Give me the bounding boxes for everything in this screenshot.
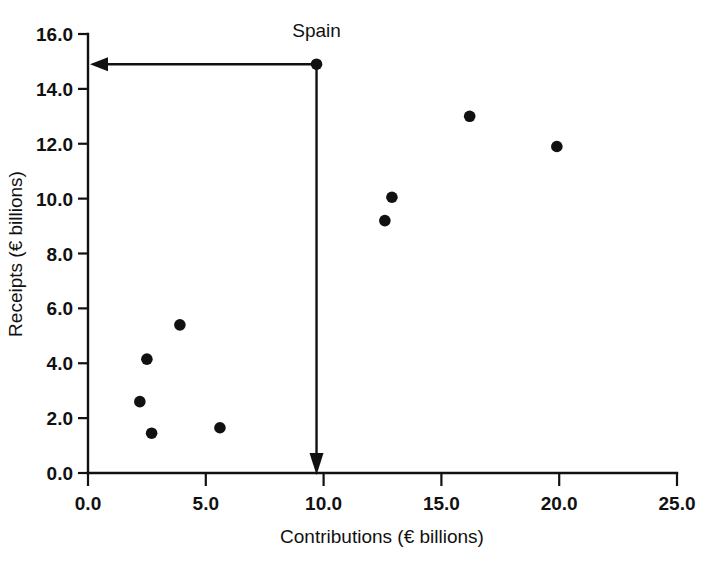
x-tick-label: 10.0 — [305, 493, 342, 514]
data-point — [386, 191, 398, 203]
y-tick-label: 16.0 — [36, 24, 73, 45]
scatter-chart: 0.02.04.06.08.010.012.014.016.0 0.05.010… — [0, 0, 721, 563]
data-point — [141, 353, 153, 365]
x-axis-title: Contributions (€ billions) — [280, 526, 484, 547]
data-point — [214, 422, 226, 434]
y-tick-label: 8.0 — [47, 244, 73, 265]
x-tick-label: 20.0 — [541, 493, 578, 514]
data-point — [379, 215, 391, 227]
y-tick-label: 12.0 — [36, 134, 73, 155]
x-tick-label: 25.0 — [659, 493, 696, 514]
y-tick-label: 0.0 — [47, 463, 73, 484]
y-tick-label: 4.0 — [47, 353, 73, 374]
data-point — [134, 396, 146, 408]
y-axis-title: Receipts (€ billions) — [5, 171, 26, 337]
y-tick-label: 14.0 — [36, 79, 73, 100]
annotation-arrowhead-down — [310, 453, 324, 475]
chart-canvas: 0.02.04.06.08.010.012.014.016.0 0.05.010… — [0, 0, 721, 563]
annotation-group: Spain — [90, 20, 341, 475]
x-tick-label: 0.0 — [75, 493, 101, 514]
x-tick-label: 15.0 — [423, 493, 460, 514]
data-point — [464, 111, 476, 123]
y-tick-label: 10.0 — [36, 189, 73, 210]
annotation-arrowhead-left — [90, 57, 108, 71]
x-tick-group: 0.05.010.015.020.025.0 — [75, 473, 696, 514]
data-point-group — [134, 58, 563, 439]
y-tick-group: 0.02.04.06.08.010.012.014.016.0 — [36, 24, 88, 484]
x-tick-label: 5.0 — [193, 493, 219, 514]
data-point — [174, 319, 186, 331]
annotation-label-spain: Spain — [292, 20, 341, 41]
y-tick-label: 2.0 — [47, 408, 73, 429]
data-point — [551, 141, 563, 153]
data-point — [146, 427, 158, 439]
y-tick-label: 6.0 — [47, 298, 73, 319]
